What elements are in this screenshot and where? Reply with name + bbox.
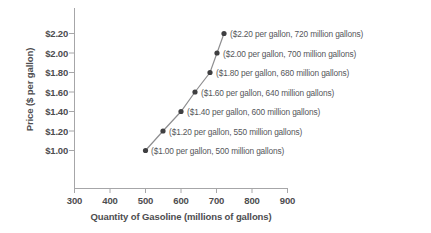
y-tick-2-20: $2.20 — [22, 28, 68, 40]
y-tick-label: $1.00 — [26, 145, 68, 156]
data-point-marker — [178, 109, 183, 114]
x-tick-700: 700 — [197, 195, 237, 206]
y-tick-label: $2.20 — [26, 28, 68, 39]
y-tick-2-00: $2.00 — [22, 48, 68, 60]
y-tick-label: $1.80 — [26, 67, 68, 78]
data-point-marker — [207, 70, 212, 75]
x-tick-300: 300 — [55, 195, 95, 206]
point-annotation-2-00: ($2.00 per gallon, 700 million gallons) — [223, 49, 356, 59]
point-annotation-1-20: ($1.20 per gallon, 550 million gallons) — [169, 127, 302, 137]
data-point-marker — [221, 31, 226, 36]
y-tick-label: $1.20 — [26, 126, 68, 137]
y-tick-1-40: $1.40 — [22, 106, 68, 118]
data-point-marker — [143, 148, 148, 153]
y-tick-1-60: $1.60 — [22, 87, 68, 99]
point-annotation-1-80: ($1.80 per gallon, 680 million gallons) — [216, 68, 349, 78]
point-annotation-2-20: ($2.20 per gallon, 720 million gallons) — [230, 29, 363, 39]
y-tick-label: $2.00 — [26, 48, 68, 59]
y-axis-ticks — [69, 34, 74, 151]
point-annotation-1-60: ($1.60 per gallon, 640 million gallons) — [201, 88, 334, 98]
x-tick-800: 800 — [232, 195, 272, 206]
y-tick-label: $1.60 — [26, 87, 68, 98]
point-annotation-1-40: ($1.40 per gallon, 600 million gallons) — [187, 107, 320, 117]
x-tick-900: 900 — [268, 195, 308, 206]
y-tick-1-20: $1.20 — [22, 126, 68, 138]
data-point-marker — [160, 128, 165, 133]
y-tick-1-00: $1.00 — [22, 145, 68, 157]
point-annotation-1-00: ($1.00 per gallon, 500 million gallons) — [151, 146, 284, 156]
supply-curve-chart: Price ($ per gallon) Quantity of Gasolin… — [0, 0, 431, 233]
y-tick-1-80: $1.80 — [22, 67, 68, 79]
x-tick-500: 500 — [126, 195, 166, 206]
y-tick-label: $1.40 — [26, 106, 68, 117]
x-tick-400: 400 — [90, 195, 130, 206]
x-axis-title: Quantity of Gasoline (millions of gallon… — [74, 211, 288, 222]
x-tick-600: 600 — [161, 195, 201, 206]
data-point-marker — [214, 50, 219, 55]
data-point-marker — [192, 89, 197, 94]
